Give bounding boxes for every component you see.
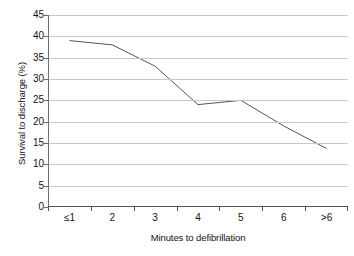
- gridline: [48, 186, 348, 187]
- y-tick-mark: [44, 79, 49, 80]
- x-tick-mark: [262, 206, 263, 211]
- x-axis-tick-labels: ≤123456>6: [48, 212, 348, 226]
- y-tick-label: 10: [20, 159, 44, 169]
- plot-area: [48, 15, 348, 207]
- gridline: [48, 79, 348, 80]
- y-tick-mark: [44, 15, 49, 16]
- y-tick-label: 30: [20, 74, 44, 84]
- x-axis-title: Minutes to defibrillation: [48, 232, 348, 243]
- y-tick-label: 45: [20, 10, 44, 20]
- y-tick-mark: [44, 122, 49, 123]
- x-tick-mark: [177, 206, 178, 211]
- gridline: [48, 164, 348, 165]
- data-series-line: [48, 15, 348, 207]
- gridline: [48, 15, 348, 16]
- x-tick-mark: [305, 206, 306, 211]
- x-tick-label: 5: [238, 212, 244, 224]
- gridline: [48, 36, 348, 37]
- x-tick-label: 2: [110, 212, 116, 224]
- gridline: [48, 100, 348, 101]
- y-tick-label: 0: [20, 202, 44, 212]
- y-tick-label: 25: [20, 95, 44, 105]
- x-tick-label: 6: [281, 212, 287, 224]
- y-tick-label: 35: [20, 53, 44, 63]
- chart-figure: Survival to discharge (%) 05101520253035…: [0, 0, 354, 256]
- x-tick-mark: [347, 206, 348, 211]
- x-tick-mark: [219, 206, 220, 211]
- y-tick-label: 20: [20, 117, 44, 127]
- y-tick-mark: [44, 58, 49, 59]
- x-tick-mark: [91, 206, 92, 211]
- x-tick-label: >6: [321, 212, 332, 224]
- x-tick-label: 3: [152, 212, 158, 224]
- gridline: [48, 143, 348, 144]
- x-tick-mark: [48, 206, 49, 211]
- y-tick-mark: [44, 186, 49, 187]
- gridline: [48, 122, 348, 123]
- y-tick-mark: [44, 164, 49, 165]
- x-tick-label: 4: [195, 212, 201, 224]
- x-tick-mark: [134, 206, 135, 211]
- y-tick-label: 5: [20, 181, 44, 191]
- gridline: [48, 58, 348, 59]
- y-tick-mark: [44, 36, 49, 37]
- y-tick-label: 15: [20, 138, 44, 148]
- y-tick-mark: [44, 143, 49, 144]
- y-axis-tick-labels: 051015202530354045: [18, 0, 44, 256]
- x-tick-label: ≤1: [64, 212, 75, 224]
- y-tick-label: 40: [20, 31, 44, 41]
- y-tick-mark: [44, 100, 49, 101]
